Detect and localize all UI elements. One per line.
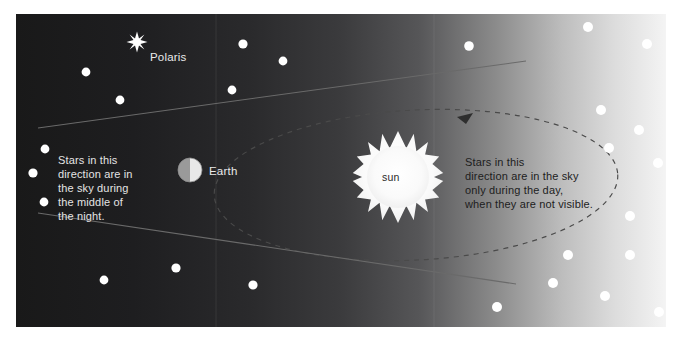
star <box>464 41 474 51</box>
star <box>41 145 50 154</box>
star <box>604 143 614 153</box>
star <box>492 302 502 312</box>
star <box>583 22 593 32</box>
star <box>563 250 573 260</box>
star <box>279 57 288 66</box>
star <box>653 158 663 168</box>
star <box>248 280 257 289</box>
star <box>40 198 49 207</box>
star <box>171 263 180 272</box>
polaris-star-icon <box>127 32 148 53</box>
star <box>642 39 652 49</box>
star <box>238 39 247 48</box>
astronomy-diagram: Polaris Earth sun Stars in this directio… <box>0 0 682 345</box>
sky-gradient-background <box>16 14 666 327</box>
earth-icon <box>178 158 202 182</box>
star <box>625 250 635 260</box>
star <box>600 291 610 301</box>
star <box>634 125 644 135</box>
star <box>116 96 125 105</box>
star <box>28 168 37 177</box>
panel-graphics <box>16 14 666 327</box>
star <box>596 105 606 115</box>
star <box>82 68 91 77</box>
star <box>228 86 237 95</box>
sky-panel: Polaris Earth sun Stars in this directio… <box>16 14 666 327</box>
star <box>625 211 635 221</box>
star <box>654 307 664 317</box>
star <box>548 278 558 288</box>
star <box>100 276 109 285</box>
